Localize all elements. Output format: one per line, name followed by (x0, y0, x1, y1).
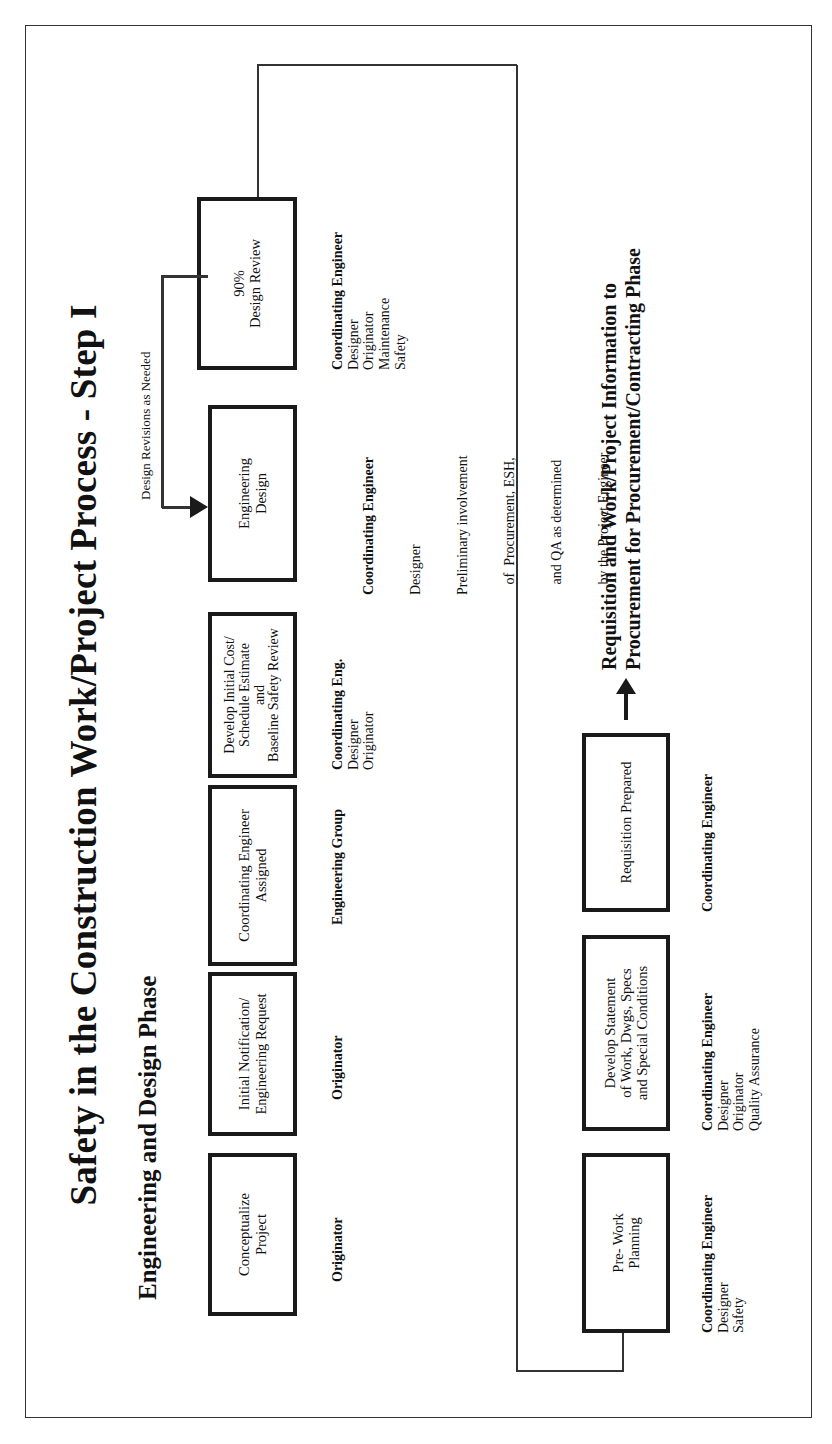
roles-coordinating-engineer-assigned: Engineering Group (330, 809, 346, 925)
step-conceptualize-project: ConceptualizeProject (208, 1153, 297, 1316)
step-90-design-review: 90%Design Review (197, 197, 297, 370)
step-initial-notification: Initial Notification/Engineering Request (208, 972, 297, 1136)
revision-connector-2 (161, 275, 164, 508)
step-develop-initial-cost: Develop Initial Cost/Schedule Estimatean… (208, 612, 297, 778)
arrow-down-icon (190, 496, 210, 518)
connector-long (516, 65, 518, 1372)
roles-develop-statement: Coordinating Engineer Designer Originato… (700, 993, 763, 1131)
connector-into-prework (622, 1333, 624, 1372)
connector-top (257, 65, 259, 197)
phase-subtitle: Engineering and Design Phase (134, 976, 162, 1300)
diagram-canvas: Safety in the Construction Work/Project … (0, 0, 832, 1444)
step-engineering-design: EngineeringDesign (208, 405, 297, 582)
roles-requisition-prepared: Coordinating Engineer (700, 774, 716, 912)
connector-left (516, 1371, 623, 1373)
roles-conceptualize: Originator (330, 1217, 346, 1282)
step-pre-work-planning: Pre- WorkPlanning (582, 1153, 670, 1333)
connector-right (257, 65, 517, 67)
handoff-to-procurement: Requisition and Work/Project Information… (598, 248, 645, 670)
roles-develop-initial-cost: Coordinating Eng. Designer Originator (330, 659, 377, 770)
design-revisions-label: Design Revisions as Needed (138, 352, 154, 500)
roles-initial-notification: Originator (330, 1035, 346, 1100)
step-develop-statement-of-work: Develop Statementof Work, Dwgs, Specsand… (582, 935, 670, 1131)
roles-pre-work-planning: Coordinating Engineer Designer Safety (700, 1195, 747, 1333)
revision-connector-1 (162, 275, 208, 278)
step-requisition-prepared: Requisition Prepared (582, 733, 670, 912)
diagram-title: Safety in the Construction Work/Project … (62, 170, 105, 1340)
roles-90-design-review: Coordinating Engineer Designer Originato… (330, 232, 408, 370)
roles-engineering-design: Coordinating Engineer Designer Prelimina… (330, 453, 643, 595)
arrow-right-icon (616, 678, 636, 720)
step-coordinating-engineer-assigned: Coordinating EngineerAssigned (208, 785, 297, 966)
